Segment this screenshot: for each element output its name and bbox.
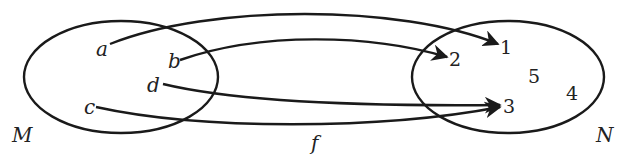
element-5: 5 [528,65,540,87]
element-d: d [147,73,160,97]
element-a: a [96,37,108,61]
element-c: c [84,95,95,119]
set-m-ellipse [24,21,218,133]
set-mapping-diagram: a b d c 1 2 5 4 3 M N f [0,0,618,165]
set-n-label: N [595,123,615,147]
mapping-label-f: f [309,131,322,155]
element-4: 4 [566,82,578,104]
element-3: 3 [503,95,515,117]
arrow-c-to-3 [96,107,500,124]
arrow-b-to-2 [180,39,447,60]
set-m-label: M [11,123,33,147]
element-1: 1 [500,36,512,58]
element-2: 2 [449,48,461,70]
element-b: b [168,49,181,73]
